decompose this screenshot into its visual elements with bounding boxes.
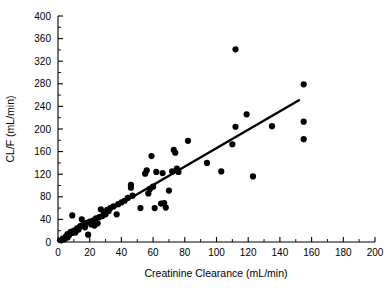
- y-tick-label: 40: [40, 214, 52, 225]
- data-point: [166, 187, 172, 193]
- data-point: [144, 167, 150, 173]
- x-tick-label: 60: [148, 247, 160, 258]
- y-tick-label: 120: [34, 169, 51, 180]
- y-tick-label: 200: [34, 124, 51, 135]
- clf-axis: 04080120160200240280320360400: [34, 11, 63, 248]
- data-point: [269, 123, 275, 129]
- data-point: [232, 124, 238, 130]
- data-point: [148, 153, 154, 159]
- y-tick-label: 360: [34, 33, 51, 44]
- creatinine-clearance-axis: 020406080100120140160180200: [55, 237, 384, 258]
- plot-canvas: 04080120160200240280320360400 0204060801…: [0, 0, 390, 288]
- x-tick-label: 160: [303, 247, 320, 258]
- data-point: [69, 212, 75, 218]
- x-tick-label: 180: [335, 247, 352, 258]
- x-tick-label: 40: [116, 247, 128, 258]
- data-point: [128, 182, 134, 188]
- x-axis-title: Creatinine Clearance (mL/min): [145, 267, 288, 279]
- data-point: [204, 160, 210, 166]
- data-point: [163, 204, 169, 210]
- data-point: [152, 205, 158, 211]
- data-point: [229, 141, 235, 147]
- data-point: [85, 232, 91, 238]
- data-point: [218, 168, 224, 174]
- data-point: [301, 136, 307, 142]
- y-tick-label: 320: [34, 56, 51, 67]
- data-point: [160, 170, 166, 176]
- y-tick-label: 400: [34, 11, 51, 22]
- x-tick-label: 20: [84, 247, 96, 258]
- x-tick-label: 80: [179, 247, 191, 258]
- x-tick-label: 100: [208, 247, 225, 258]
- data-point: [172, 150, 178, 156]
- regression-line: [58, 100, 299, 240]
- data-point: [244, 111, 250, 117]
- y-tick-label: 0: [45, 237, 51, 248]
- y-tick-label: 280: [34, 78, 51, 89]
- data-point: [153, 169, 159, 175]
- x-tick-label: 140: [272, 247, 289, 258]
- data-point: [114, 211, 120, 217]
- data-point: [301, 81, 307, 87]
- data-point: [232, 46, 238, 52]
- data-point: [250, 173, 256, 179]
- y-axis-title: CL/F (mL/min): [4, 95, 16, 162]
- data-point: [137, 205, 143, 211]
- data-point-series: [58, 46, 307, 243]
- data-point: [185, 138, 191, 144]
- scatter-plot-figure: 04080120160200240280320360400 0204060801…: [0, 0, 390, 288]
- x-tick-label: 120: [240, 247, 257, 258]
- y-tick-label: 240: [34, 101, 51, 112]
- x-tick-label: 0: [55, 247, 61, 258]
- x-tick-label: 200: [367, 247, 384, 258]
- data-point: [95, 220, 101, 226]
- y-tick-label: 160: [34, 146, 51, 157]
- data-point: [301, 119, 307, 125]
- y-tick-label: 80: [40, 191, 52, 202]
